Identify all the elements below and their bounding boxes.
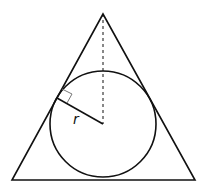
inscribed-circle-diagram: r bbox=[0, 0, 209, 191]
radius-label: r bbox=[73, 111, 80, 127]
radius-line bbox=[57, 98, 103, 124]
